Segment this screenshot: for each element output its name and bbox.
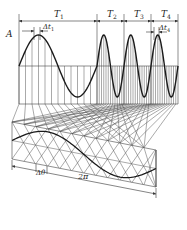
sampling-lines xyxy=(19,35,176,104)
waveform-diagram: A T1 T2 T3 T4 Δt1 Δt4 Δθ 2π xyxy=(0,0,187,230)
period-label-2: T2 xyxy=(107,9,117,20)
projection-lines xyxy=(12,104,176,148)
delta-t4-label: Δt4 xyxy=(158,24,170,33)
period-label-1: T1 xyxy=(54,9,64,20)
delta-t1-label: Δt1 xyxy=(42,23,54,32)
period-label-3: T3 xyxy=(134,9,144,20)
amplitude-label: A xyxy=(5,29,13,39)
full-cycle-label: 2π xyxy=(77,172,89,181)
delta-theta-label: Δθ xyxy=(35,169,46,177)
period-label-4: T4 xyxy=(161,9,171,20)
